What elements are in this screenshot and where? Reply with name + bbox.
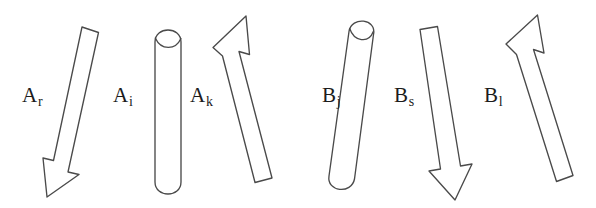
label-b-j-base: B bbox=[322, 83, 336, 107]
label-a-k-subscript: k bbox=[206, 94, 213, 109]
label-b-s: Bs bbox=[394, 85, 414, 106]
label-a-i: Ai bbox=[113, 85, 132, 106]
arrow-b-s bbox=[420, 27, 472, 201]
label-b-s-base: B bbox=[394, 83, 408, 107]
label-b-s-subscript: s bbox=[409, 94, 415, 109]
label-a-i-base: A bbox=[113, 83, 128, 107]
label-b-j: Bj bbox=[322, 85, 340, 106]
label-a-k-base: A bbox=[190, 83, 205, 107]
arrow-a-k bbox=[213, 16, 272, 183]
arrow-b-l bbox=[506, 15, 573, 182]
label-b-l-subscript: l bbox=[499, 94, 503, 109]
label-b-l-base: B bbox=[484, 83, 498, 107]
label-a-k: Ak bbox=[190, 85, 213, 106]
label-b-j-subscript: j bbox=[337, 94, 341, 109]
label-a-i-subscript: i bbox=[129, 94, 133, 109]
label-a-r-base: A bbox=[22, 83, 37, 107]
rod-a-i bbox=[155, 30, 181, 194]
vector-diagram-svg bbox=[0, 0, 596, 208]
label-b-l: Bl bbox=[484, 85, 502, 106]
label-a-r-subscript: r bbox=[38, 94, 43, 109]
label-a-r: Ar bbox=[22, 85, 42, 106]
figure-canvas: Ar Ai Ak Bj Bs Bl bbox=[0, 0, 596, 208]
arrow-a-r bbox=[43, 27, 99, 197]
